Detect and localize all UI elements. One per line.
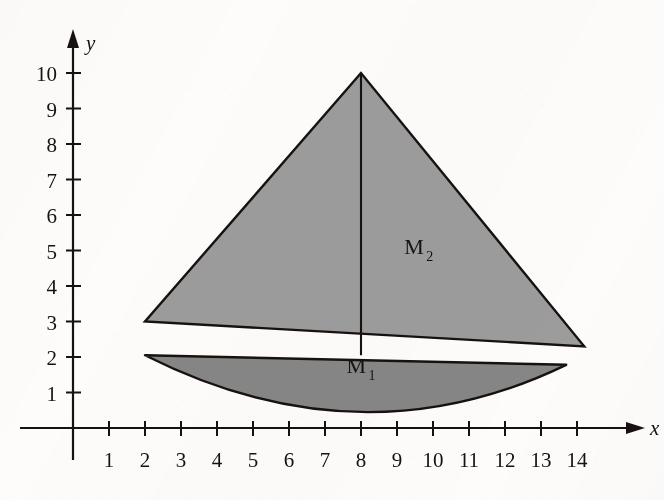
x-tick-label: 11 bbox=[459, 448, 479, 472]
x-tick-label: 10 bbox=[423, 448, 444, 472]
x-tick-label: 3 bbox=[176, 448, 187, 472]
x-axis-tick-labels: 1234567891011121314 bbox=[104, 448, 588, 472]
y-tick-label: 3 bbox=[47, 311, 58, 335]
region-m2-triangle bbox=[145, 73, 584, 346]
y-tick-label: 6 bbox=[47, 204, 58, 228]
y-tick-label: 4 bbox=[47, 275, 58, 299]
coordinate-plane-svg: x 1234567891011121314 y 12345678910 M 2 … bbox=[0, 0, 664, 500]
x-tick-label: 9 bbox=[392, 448, 403, 472]
x-axis-arrowhead bbox=[626, 422, 645, 434]
region-m1-label-main: M bbox=[347, 353, 367, 378]
y-axis-arrowhead bbox=[67, 29, 79, 48]
y-axis-label: y bbox=[84, 31, 96, 55]
x-tick-label: 8 bbox=[356, 448, 367, 472]
x-tick-label: 2 bbox=[140, 448, 151, 472]
y-axis-group: y 12345678910 bbox=[36, 29, 96, 460]
region-m2-group bbox=[145, 73, 584, 346]
x-tick-label: 7 bbox=[320, 448, 331, 472]
region-m2-label-main: M bbox=[404, 234, 424, 259]
y-tick-label: 9 bbox=[47, 98, 58, 122]
x-tick-label: 4 bbox=[212, 448, 223, 472]
y-tick-label: 1 bbox=[47, 382, 58, 406]
x-tick-label: 6 bbox=[284, 448, 295, 472]
region-m1-label-subscript: 1 bbox=[369, 368, 376, 383]
x-tick-label: 14 bbox=[567, 448, 589, 472]
y-tick-label: 5 bbox=[47, 240, 58, 264]
x-axis-group: x 1234567891011121314 bbox=[20, 416, 660, 472]
y-axis-tick-labels: 12345678910 bbox=[36, 62, 58, 406]
y-tick-label: 8 bbox=[47, 133, 58, 157]
x-tick-label: 5 bbox=[248, 448, 259, 472]
x-tick-label: 13 bbox=[531, 448, 552, 472]
y-tick-label: 10 bbox=[36, 62, 57, 86]
region-m2-label-subscript: 2 bbox=[426, 249, 433, 264]
y-tick-label: 7 bbox=[47, 169, 58, 193]
y-tick-label: 2 bbox=[47, 346, 58, 370]
x-tick-label: 1 bbox=[104, 448, 115, 472]
x-tick-label: 12 bbox=[495, 448, 516, 472]
figure-canvas: x 1234567891011121314 y 12345678910 M 2 … bbox=[0, 0, 664, 500]
x-axis-label: x bbox=[649, 416, 660, 440]
